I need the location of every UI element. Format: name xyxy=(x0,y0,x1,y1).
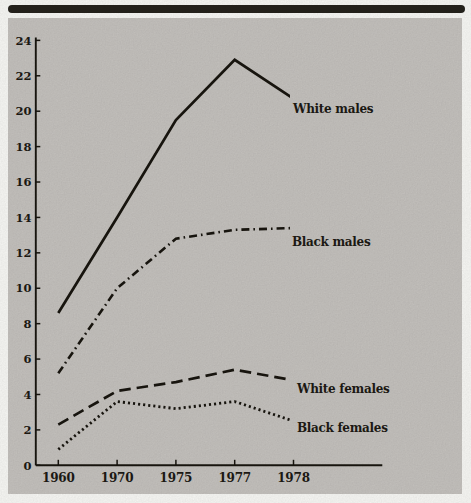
y-tick-label: 18 xyxy=(15,140,31,154)
x-tick-label: 1978 xyxy=(277,471,310,485)
series-label-black-males: Black males xyxy=(292,235,371,249)
series-label-black-females: Black females xyxy=(297,421,388,435)
y-tick-label: 24 xyxy=(15,34,31,48)
y-tick-label: 6 xyxy=(23,352,31,366)
x-tick-label: 1975 xyxy=(160,471,193,485)
series-label-white-males: White males xyxy=(292,102,374,116)
y-tick-label: 8 xyxy=(23,317,31,331)
y-tick-label: 10 xyxy=(15,281,31,295)
y-tick-label: 0 xyxy=(23,459,31,473)
x-tick-label: 1970 xyxy=(101,471,134,485)
y-tick-label: 4 xyxy=(23,388,31,402)
y-tick-label: 2 xyxy=(23,423,31,437)
page: 0246810121416182022241960197019751977197… xyxy=(0,0,471,503)
y-tick-label: 12 xyxy=(15,246,31,260)
y-tick-label: 20 xyxy=(15,104,31,118)
y-tick-label: 16 xyxy=(15,175,31,189)
series-label-white-females: White females xyxy=(296,382,390,396)
y-tick-label: 14 xyxy=(15,211,31,225)
x-tick-label: 1977 xyxy=(218,471,251,485)
y-tick-label: 22 xyxy=(15,69,31,83)
paper-texture xyxy=(8,18,462,494)
x-tick-label: 1960 xyxy=(42,471,75,485)
line-chart: 0246810121416182022241960197019751977197… xyxy=(0,0,471,503)
